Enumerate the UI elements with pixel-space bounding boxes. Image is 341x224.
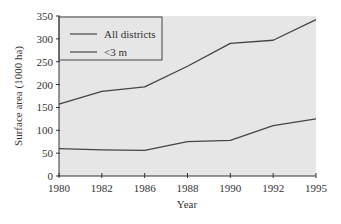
x-tick-label: 1988 bbox=[177, 182, 200, 194]
x-axis-title: Year bbox=[177, 198, 198, 210]
x-tick-label: 1980 bbox=[48, 182, 71, 194]
line-chart: 050100150200250300350 198019821986198819… bbox=[0, 0, 341, 224]
x-tick-label: 1982 bbox=[91, 182, 113, 194]
y-tick-label: 300 bbox=[37, 33, 54, 45]
y-tick-label: 250 bbox=[37, 56, 54, 68]
y-axis: 050100150200250300350 bbox=[37, 10, 61, 182]
x-tick-label: 1986 bbox=[134, 182, 157, 194]
y-axis-title: Surface area (1000 ha) bbox=[12, 46, 25, 146]
x-tick-label: 1992 bbox=[262, 182, 284, 194]
legend-label-under-3m: <3 m bbox=[104, 46, 127, 58]
y-tick-label: 200 bbox=[37, 79, 54, 91]
x-axis: 1980198219861988199019921995 bbox=[48, 173, 328, 194]
y-tick-label: 100 bbox=[37, 124, 54, 136]
x-tick-label: 1995 bbox=[305, 182, 328, 194]
y-tick-label: 0 bbox=[48, 170, 54, 182]
y-tick-label: 150 bbox=[37, 101, 54, 113]
y-tick-label: 50 bbox=[42, 147, 54, 159]
x-tick-label: 1990 bbox=[219, 182, 242, 194]
legend-label-all-districts: All districts bbox=[104, 28, 156, 40]
plot-area bbox=[59, 16, 316, 176]
y-tick-label: 350 bbox=[37, 10, 54, 22]
chart-canvas: 050100150200250300350 198019821986198819… bbox=[0, 0, 341, 224]
